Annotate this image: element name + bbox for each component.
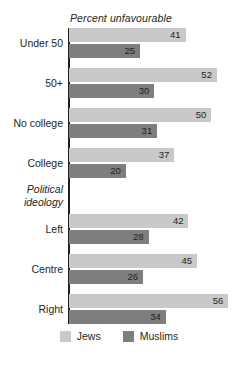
bar-value-label: 20 — [69, 165, 121, 177]
bar-value-label: 52 — [69, 69, 212, 81]
bar-value-label: 56 — [69, 295, 223, 307]
bar-groups: Under 50412550+5230No college5031College… — [0, 28, 238, 324]
bar-value-label: 26 — [69, 271, 138, 283]
chart-title: Percent unfavourable — [70, 12, 172, 24]
bar-value-label: 34 — [69, 311, 161, 323]
bar-group: Centre4526 — [0, 254, 238, 284]
plot-area: Under 50412550+5230No college5031College… — [0, 28, 238, 324]
bar-group: 50+5230 — [0, 68, 238, 98]
bar-group: Under 504125 — [0, 28, 238, 58]
bar-value-label: 50 — [69, 109, 206, 121]
bar-group: Left4228 — [0, 214, 238, 244]
legend-label-muslims: Muslims — [140, 330, 179, 342]
bar-value-label: 30 — [69, 85, 149, 97]
bar-value-label: 25 — [69, 45, 135, 57]
category-label-50-: 50+ — [0, 77, 63, 89]
legend-item-muslims: Muslims — [123, 330, 179, 342]
section-heading-line-1: Political — [0, 183, 63, 196]
bar-value-label: 45 — [69, 255, 192, 267]
category-label-left: Left — [0, 223, 63, 235]
bar-value-label: 31 — [69, 125, 152, 137]
bar-value-label: 37 — [69, 149, 169, 161]
category-label-centre: Centre — [0, 263, 63, 275]
legend-swatch-jews-icon — [60, 331, 71, 342]
bar-group: College3720 — [0, 148, 238, 178]
bar-group: Right5634 — [0, 294, 238, 324]
chart-legend: Jews Muslims — [0, 330, 238, 342]
category-label-under-50: Under 50 — [0, 37, 63, 49]
category-label-college: College — [0, 157, 63, 169]
bar-value-label: 28 — [69, 231, 144, 243]
bar-group: No college5031 — [0, 108, 238, 138]
category-label-right: Right — [0, 303, 63, 315]
section-heading-political-ideology: Politicalideology — [0, 183, 63, 208]
bar-chart: Percent unfavourable Under 50412550+5230… — [0, 0, 238, 368]
legend-label-jews: Jews — [77, 330, 101, 342]
bar-value-label: 41 — [69, 29, 181, 41]
bar-value-label: 42 — [69, 215, 183, 227]
section-heading-line-2: ideology — [0, 196, 63, 209]
legend-item-jews: Jews — [60, 330, 101, 342]
legend-swatch-muslims-icon — [123, 331, 134, 342]
category-label-no-college: No college — [0, 117, 63, 129]
